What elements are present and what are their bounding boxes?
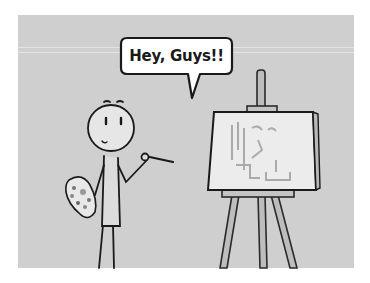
painting-canvas <box>208 112 320 190</box>
stick-figure-painter <box>88 101 173 268</box>
speech-bubble-text: Hey, Guys!! <box>121 38 232 74</box>
paint-palette <box>66 177 96 218</box>
